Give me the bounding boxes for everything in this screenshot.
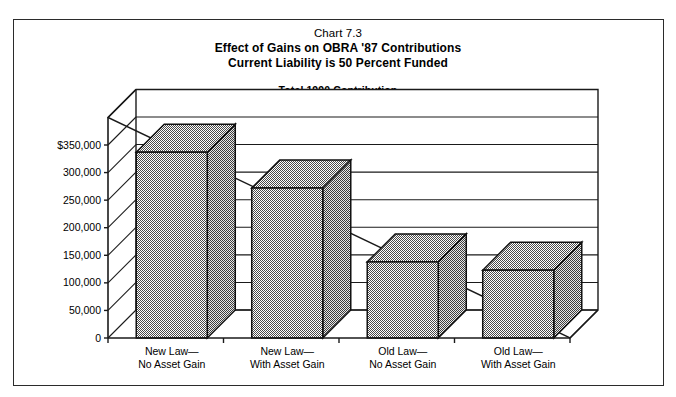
- y-tick-label: 300,000: [63, 166, 101, 178]
- chart-figure: Chart 7.3 Effect of Gains on OBRA '87 Co…: [0, 0, 676, 397]
- x-tick-label: Old Law—: [494, 345, 544, 357]
- y-tick-label: $350,000: [57, 139, 101, 151]
- x-tick-label: New Law—: [145, 345, 199, 357]
- y-tick-label: 150,000: [63, 249, 101, 261]
- x-tick-label: No Asset Gain: [138, 358, 205, 370]
- y-tick-label: 100,000: [63, 276, 101, 288]
- bar-group: [252, 160, 351, 338]
- bar-group: [367, 234, 466, 338]
- chart-plot-area: 050,000100,000150,000200,000250,000300,0…: [0, 0, 676, 397]
- bar-group: [136, 124, 235, 338]
- x-tick-label: Old Law—: [378, 345, 428, 357]
- y-tick-label: 200,000: [63, 221, 101, 233]
- x-tick-label: New Law—: [260, 345, 314, 357]
- bar-front-face: [367, 262, 438, 338]
- bar-group: [483, 242, 582, 338]
- y-axis-tick-labels: 050,000100,000150,000200,000250,000300,0…: [57, 139, 101, 344]
- x-tick-label: With Asset Gain: [481, 358, 556, 370]
- x-axis-tick-labels: New Law—No Asset GainNew Law—With Asset …: [138, 345, 556, 370]
- bar-side-face: [323, 160, 351, 338]
- x-tick-label: With Asset Gain: [250, 358, 325, 370]
- bar-front-face: [136, 152, 207, 338]
- y-tick-label: 0: [95, 332, 101, 344]
- y-tick-label: 50,000: [69, 304, 101, 316]
- y-tick-label: 250,000: [63, 194, 101, 206]
- bar-front-face: [252, 188, 323, 338]
- bar-front-face: [483, 270, 554, 338]
- x-tick-label: No Asset Gain: [369, 358, 436, 370]
- bar-side-face: [207, 124, 235, 338]
